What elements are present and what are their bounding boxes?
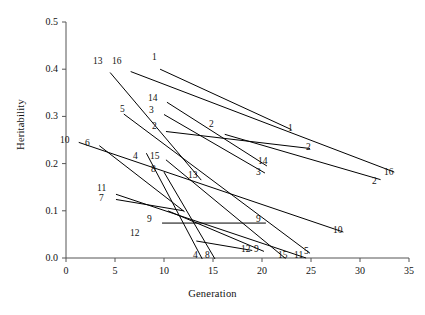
x-tick-label: 20 <box>242 265 282 276</box>
series-point-label: 15 <box>150 152 160 162</box>
series-point-label: 10 <box>333 226 343 236</box>
series-point-label: 2 <box>306 143 311 153</box>
series-point-label: 16 <box>112 57 122 67</box>
series-point-label: 7 <box>99 194 104 204</box>
series-line-10 <box>79 142 344 232</box>
series-point-label: 4 <box>193 251 198 261</box>
series-point-label: 4 <box>133 152 138 162</box>
x-tick-label: 0 <box>46 265 86 276</box>
heritability-generation-chart: 051015202530350.00.10.20.30.40.5 1316114… <box>0 0 425 315</box>
y-axis-title: Heritability <box>15 75 26 175</box>
series-line-11 <box>116 194 306 258</box>
series-line-2b <box>225 134 381 179</box>
series-point-label: 13 <box>188 171 198 181</box>
series-line-8 <box>164 172 215 259</box>
y-tick-label: 0.1 <box>14 205 58 216</box>
series-point-label: 5 <box>304 247 309 257</box>
series-point-label: 1 <box>152 53 157 63</box>
series-point-label: 3 <box>149 106 154 116</box>
x-tick-label: 30 <box>340 265 380 276</box>
series-point-label: 14 <box>258 157 268 167</box>
series-point-label: 9 <box>147 215 152 225</box>
series-point-label: 2 <box>372 177 377 187</box>
series-line-1 <box>160 69 291 129</box>
x-tick-label: 35 <box>389 265 425 276</box>
x-tick-label: 5 <box>95 265 135 276</box>
series-point-label: 16 <box>384 168 394 178</box>
series-point-label: 12 <box>241 245 251 255</box>
series-point-label: 2 <box>209 120 214 130</box>
series-line-3 <box>164 115 265 174</box>
series-line-2 <box>166 132 310 149</box>
y-tick-label: 0.4 <box>14 63 58 74</box>
series-point-label: 15 <box>278 251 288 261</box>
series-point-label: 11 <box>294 251 303 261</box>
series-point-label: 6 <box>85 139 90 149</box>
series-point-label: 3 <box>256 168 261 178</box>
series-point-label: 5 <box>120 105 125 115</box>
series-point-label: 8 <box>205 251 210 261</box>
y-tick-label: 0.5 <box>14 16 58 27</box>
series-point-label: 8 <box>151 165 156 175</box>
series-line-15 <box>166 160 286 259</box>
data-series-group <box>79 69 395 259</box>
x-tick-label: 25 <box>291 265 331 276</box>
x-axis-title: Generation <box>0 288 425 299</box>
series-line-5 <box>124 114 310 253</box>
series-point-label: 12 <box>130 229 140 239</box>
x-tick-label: 10 <box>144 265 184 276</box>
series-point-label: 9 <box>254 245 259 255</box>
series-point-label: 14 <box>148 94 158 104</box>
y-tick-label: 0.0 <box>14 252 58 263</box>
series-point-label: 2 <box>152 122 157 132</box>
series-point-label: 13 <box>93 57 103 67</box>
series-point-label: 10 <box>60 136 70 146</box>
x-tick-label: 15 <box>193 265 233 276</box>
series-point-label: 9 <box>256 215 261 225</box>
series-line-6 <box>99 146 184 212</box>
series-point-label: 1 <box>288 124 293 134</box>
